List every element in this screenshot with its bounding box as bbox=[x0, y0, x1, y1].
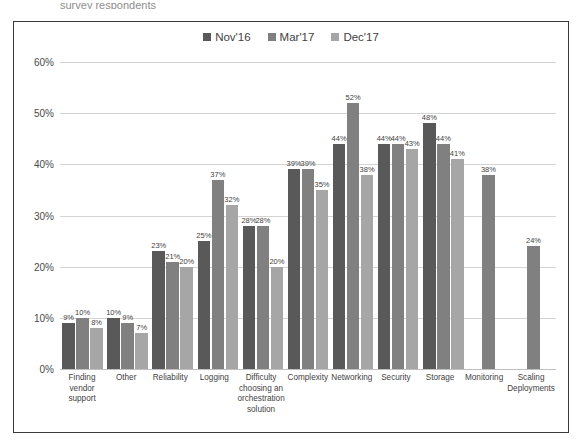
y-axis-tick-label: 60% bbox=[34, 57, 54, 68]
bar[interactable] bbox=[76, 318, 89, 369]
bar-slot: 28% bbox=[243, 62, 256, 369]
y-axis-tick-label: 40% bbox=[34, 159, 54, 170]
bar-value-label: 38% bbox=[481, 165, 496, 174]
bar-slot: 38% bbox=[361, 62, 374, 369]
bar-slot: 39% bbox=[288, 62, 301, 369]
bar[interactable] bbox=[107, 318, 120, 369]
bar-value-label: 9% bbox=[122, 313, 133, 322]
bar-value-label: 39% bbox=[287, 159, 302, 168]
bar-group: 10%9%7% bbox=[105, 62, 150, 369]
bar-slot bbox=[468, 62, 481, 369]
bar[interactable] bbox=[90, 328, 103, 369]
bar-slot: 44% bbox=[437, 62, 450, 369]
bar-value-label: 38% bbox=[360, 165, 375, 174]
bar-slot: 24% bbox=[527, 62, 540, 369]
legend-item-dec17[interactable]: Dec'17 bbox=[331, 31, 378, 43]
bar[interactable] bbox=[288, 169, 301, 369]
bar[interactable] bbox=[166, 262, 179, 369]
bar[interactable] bbox=[271, 267, 284, 369]
bar-slot bbox=[513, 62, 526, 369]
chart-screenshot: survey respondents Nov'16Mar'17Dec'17 0%… bbox=[0, 0, 582, 447]
bar-slot: 28% bbox=[257, 62, 270, 369]
bar-value-label: 8% bbox=[91, 318, 102, 327]
legend-swatch-icon bbox=[203, 33, 211, 41]
bar[interactable] bbox=[180, 267, 193, 369]
y-axis-tick-label: 20% bbox=[34, 261, 54, 272]
bar-slot: 39% bbox=[302, 62, 315, 369]
bar-value-label: 7% bbox=[136, 323, 147, 332]
bar-group: 23%21%20% bbox=[150, 62, 195, 369]
bar-group: 28%28%20% bbox=[240, 62, 285, 369]
bar-value-label: 41% bbox=[450, 149, 465, 158]
bar[interactable] bbox=[333, 144, 346, 369]
bar[interactable] bbox=[527, 246, 540, 369]
x-axis-label: Storage bbox=[418, 373, 462, 384]
bar-slot bbox=[496, 62, 509, 369]
bar-groups: 9%10%8%10%9%7%23%21%20%25%37%32%28%28%20… bbox=[60, 62, 556, 369]
x-axis-label: Reliability bbox=[148, 373, 192, 384]
bar[interactable] bbox=[423, 123, 436, 369]
bar-value-label: 44% bbox=[391, 134, 406, 143]
bar[interactable] bbox=[406, 149, 419, 369]
bar[interactable] bbox=[392, 144, 405, 369]
bar-slot: 37% bbox=[212, 62, 225, 369]
bar[interactable] bbox=[437, 144, 450, 369]
bar[interactable] bbox=[316, 190, 329, 369]
legend-label: Dec'17 bbox=[343, 31, 378, 43]
x-axis-label: Scaling Deployments bbox=[506, 373, 556, 394]
bar-value-label: 52% bbox=[346, 93, 361, 102]
x-axis-label: Complexity bbox=[286, 373, 330, 384]
bar-group: 25%37%32% bbox=[195, 62, 240, 369]
y-axis-tick-label: 50% bbox=[34, 108, 54, 119]
bar[interactable] bbox=[226, 205, 239, 369]
bar-value-label: 28% bbox=[255, 216, 270, 225]
bar-value-label: 20% bbox=[269, 257, 284, 266]
bar[interactable] bbox=[347, 103, 360, 369]
bar-slot: 10% bbox=[76, 62, 89, 369]
legend-label: Mar'17 bbox=[280, 31, 315, 43]
legend-item-mar17[interactable]: Mar'17 bbox=[268, 31, 315, 43]
bar[interactable] bbox=[121, 323, 134, 369]
bar-slot: 44% bbox=[392, 62, 405, 369]
x-axis-label: Security bbox=[374, 373, 418, 384]
bar-slot: 20% bbox=[180, 62, 193, 369]
legend-item-nov16[interactable]: Nov'16 bbox=[203, 31, 250, 43]
bar-value-label: 10% bbox=[75, 308, 90, 317]
bar-value-label: 23% bbox=[151, 241, 166, 250]
bar-value-label: 35% bbox=[315, 180, 330, 189]
bar-slot: 9% bbox=[62, 62, 75, 369]
x-axis-label: Finding vendor support bbox=[60, 373, 104, 405]
bar-group: 39%39%35% bbox=[285, 62, 330, 369]
bar-slot: 52% bbox=[347, 62, 360, 369]
bar[interactable] bbox=[62, 323, 75, 369]
bar-slot: 25% bbox=[198, 62, 211, 369]
bar[interactable] bbox=[135, 333, 148, 369]
bar[interactable] bbox=[198, 241, 211, 369]
bar-slot: 20% bbox=[271, 62, 284, 369]
chart-legend: Nov'16Mar'17Dec'17 bbox=[14, 31, 568, 43]
bar[interactable] bbox=[302, 169, 315, 369]
bar-value-label: 20% bbox=[179, 257, 194, 266]
bar[interactable] bbox=[257, 226, 270, 369]
cut-off-caption-text: survey respondents bbox=[60, 0, 360, 9]
bar[interactable] bbox=[152, 251, 165, 369]
bar-slot: 7% bbox=[135, 62, 148, 369]
bar[interactable] bbox=[451, 159, 464, 369]
legend-swatch-icon bbox=[268, 33, 276, 41]
bar-value-label: 37% bbox=[210, 170, 225, 179]
y-axis-tick-label: 30% bbox=[34, 210, 54, 221]
bar-value-label: 28% bbox=[241, 216, 256, 225]
bar-slot: 23% bbox=[152, 62, 165, 369]
bar-group: 44%44%43% bbox=[376, 62, 421, 369]
bar-slot: 9% bbox=[121, 62, 134, 369]
bar-slot: 48% bbox=[423, 62, 436, 369]
bar[interactable] bbox=[378, 144, 391, 369]
bar[interactable] bbox=[482, 175, 495, 369]
bar-value-label: 39% bbox=[301, 159, 316, 168]
bar[interactable] bbox=[212, 180, 225, 369]
bar[interactable] bbox=[243, 226, 256, 369]
legend-label: Nov'16 bbox=[215, 31, 250, 43]
gridline bbox=[60, 369, 556, 370]
bar[interactable] bbox=[361, 175, 374, 369]
chart-frame: Nov'16Mar'17Dec'17 0%10%20%30%40%50%60% … bbox=[13, 21, 569, 433]
